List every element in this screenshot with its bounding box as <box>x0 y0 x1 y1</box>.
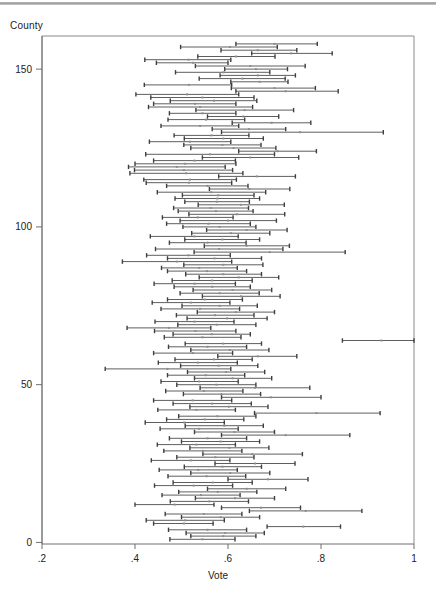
interval-row <box>176 313 254 317</box>
interval-row <box>182 439 260 443</box>
interval-row <box>152 300 230 304</box>
interval-row <box>156 61 228 65</box>
interval-row <box>162 493 240 497</box>
interval-row <box>122 259 231 263</box>
interval-row <box>179 490 257 494</box>
interval-row <box>185 237 260 241</box>
interval-row <box>191 348 269 352</box>
interval-row <box>186 272 262 276</box>
interval-row <box>154 521 214 525</box>
interval-row <box>198 203 284 207</box>
interval-row <box>188 370 265 374</box>
interval-row <box>155 483 233 487</box>
interval-row <box>151 458 230 462</box>
interval-row <box>144 83 231 87</box>
interval-row <box>196 108 294 112</box>
interval-row <box>194 250 345 254</box>
interval-row <box>215 461 295 465</box>
x-tick-label: .8 <box>317 553 326 564</box>
interval-row <box>191 146 276 150</box>
interval-row <box>154 102 236 106</box>
interval-row <box>182 515 260 519</box>
interval-row <box>182 304 257 308</box>
interval-row <box>190 405 268 409</box>
interval-row <box>166 389 243 393</box>
interval-rows-group <box>105 42 414 542</box>
interval-row <box>146 152 275 156</box>
interval-row <box>175 357 252 361</box>
interval-row <box>191 534 256 538</box>
interval-row <box>184 143 261 147</box>
interval-row <box>176 70 270 74</box>
interval-row <box>168 297 243 301</box>
interval-row <box>181 45 278 49</box>
interval-row <box>199 76 285 80</box>
interval-row <box>173 480 252 484</box>
interval-row <box>222 395 322 399</box>
interval-row <box>184 465 261 469</box>
interval-row <box>209 187 289 191</box>
interval-row <box>208 487 286 491</box>
interval-row <box>161 124 239 128</box>
interval-row <box>255 411 381 415</box>
interval-row <box>189 212 285 216</box>
interval-row <box>145 58 231 62</box>
interval-row <box>231 86 315 90</box>
interval-row <box>144 177 237 181</box>
interval-row <box>160 427 238 431</box>
interval-row <box>208 114 279 118</box>
x-axis-title: Vote <box>0 570 436 581</box>
interval-row <box>147 253 231 257</box>
interval-row <box>184 263 263 267</box>
interval-row <box>192 231 270 235</box>
interval-row <box>156 247 283 251</box>
interval-row <box>170 99 256 103</box>
interval-row <box>187 316 267 320</box>
interval-row <box>267 524 340 528</box>
interval-row <box>186 531 264 535</box>
interval-row <box>202 294 280 298</box>
interval-row <box>198 54 275 58</box>
interval-row <box>170 499 248 503</box>
confidence-interval-plot: .2.4.6.81050100150 <box>0 0 436 597</box>
interval-row <box>190 446 269 450</box>
interval-row <box>161 379 238 383</box>
interval-row <box>195 64 305 68</box>
interval-row <box>199 275 279 279</box>
interval-row <box>146 181 232 185</box>
interval-row <box>167 222 251 226</box>
interval-row <box>174 285 250 289</box>
interval-row <box>180 218 276 222</box>
interval-row <box>150 234 238 238</box>
interval-row <box>236 89 338 93</box>
interval-row <box>164 335 241 339</box>
interval-row <box>204 244 289 248</box>
interval-row <box>173 401 251 405</box>
interval-row <box>177 383 256 387</box>
interval-row <box>182 193 254 197</box>
interval-row <box>178 323 256 327</box>
interval-row <box>173 332 250 336</box>
interval-row <box>174 133 249 137</box>
interval-row <box>158 408 236 412</box>
interval-row <box>130 171 243 175</box>
interval-row <box>154 282 235 286</box>
interval-row <box>200 386 310 390</box>
interval-row <box>157 442 235 446</box>
interval-row <box>165 512 242 516</box>
interval-row <box>175 196 260 200</box>
interval-row <box>219 174 296 178</box>
interval-row <box>169 528 247 532</box>
interval-row <box>172 278 252 282</box>
interval-row <box>183 225 256 229</box>
interval-row <box>157 190 265 194</box>
x-tick-label: .6 <box>224 553 233 564</box>
interval-row <box>162 215 233 219</box>
interval-row <box>169 345 247 349</box>
interval-row <box>135 168 233 172</box>
interval-row <box>154 158 236 162</box>
interval-row <box>167 184 248 188</box>
interval-row <box>135 502 214 506</box>
interval-row <box>181 364 258 368</box>
interval-row <box>195 430 275 434</box>
